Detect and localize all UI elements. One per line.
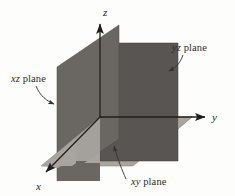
xy-plane-label: xy plane [130,176,167,187]
z-axis-label: z [102,6,108,18]
coordinate-planes-figure: z y x yz plane xz plane xy plane [0,0,235,196]
xy-plane-front-wing [178,117,192,129]
y-axis-label: y [211,111,217,123]
xz-plane-annotation: xz plane [10,73,54,104]
diagram-canvas: z y x yz plane xz plane xy plane [0,0,235,196]
yz-plane-label: yz plane [171,42,207,53]
x-axis-label: x [35,180,41,192]
xz-plane-label: xz plane [10,73,46,84]
